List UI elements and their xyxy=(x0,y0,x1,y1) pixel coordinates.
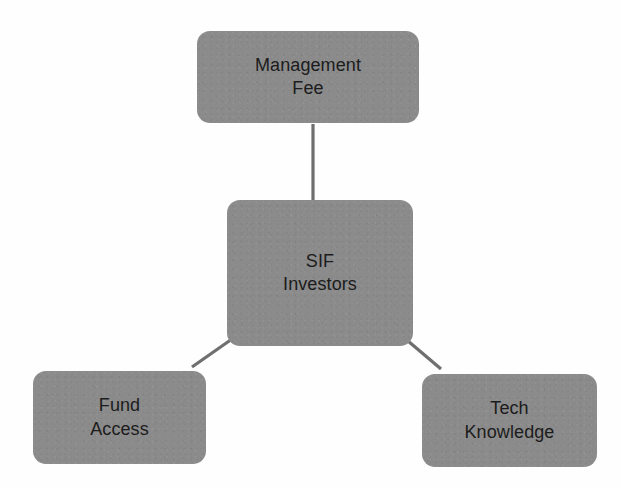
diagram-canvas: Management Fee SIF Investors Fund Access… xyxy=(0,0,621,488)
node-sif-investors[interactable]: SIF Investors xyxy=(227,200,413,346)
node-tech-knowledge-label: Tech Knowledge xyxy=(459,397,561,443)
node-fund-access[interactable]: Fund Access xyxy=(33,371,206,464)
node-tech-knowledge[interactable]: Tech Knowledge xyxy=(422,374,597,467)
node-management-fee[interactable]: Management Fee xyxy=(197,31,419,123)
node-management-fee-label: Management Fee xyxy=(249,54,367,100)
connector-hub-to-tech-knowledge xyxy=(408,341,441,369)
node-fund-access-label: Fund Access xyxy=(84,394,155,440)
node-sif-investors-label: SIF Investors xyxy=(277,250,363,296)
connector-hub-to-fund-access xyxy=(192,339,232,367)
